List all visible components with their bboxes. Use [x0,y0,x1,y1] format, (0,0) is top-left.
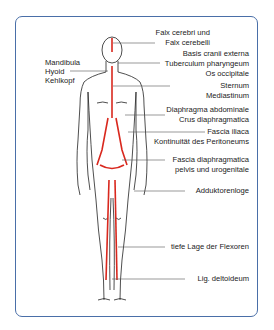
label-lig-deltoideum: Lig. deltoideum [197,274,249,284]
label-mediastinum: Mediastinum [206,91,249,101]
label-falx-cerebri: Falx cerebri und [156,28,210,38]
fascia-lines [97,38,127,280]
label-crus-diaphragmatica: Crus diaphragmatica [179,115,249,125]
label-diaphragma-abdominale: Diaphragma abdominale [166,105,249,115]
label-os-occipitale: Os occipitale [206,69,249,79]
label-kontinuitaet-peritoneum: Kontinuität des Peritoneums [154,137,249,147]
label-basis-cranii: Basis cranii externa [183,49,249,59]
label-adduktorenloge: Adduktorenloge [196,186,249,196]
label-kehlkopf: Kehlkopf [45,76,75,86]
label-fascia-diaphragmatica: Fascia diaphragmatica [173,155,249,165]
label-falx-cerebelli: Falx cerebelli [165,38,210,48]
label-pelvis-urogenitale: pelvis und urogenitale [175,165,249,175]
label-sternum: Sternum [220,81,249,91]
label-tiefe-lage-flexoren: tiefe Lage der Flexoren [171,242,249,252]
label-fascia-iliaca: Fascia iliaca [207,127,249,137]
label-tuberculum-pharyngeum: Tuberculum pharyngeum [165,59,249,69]
